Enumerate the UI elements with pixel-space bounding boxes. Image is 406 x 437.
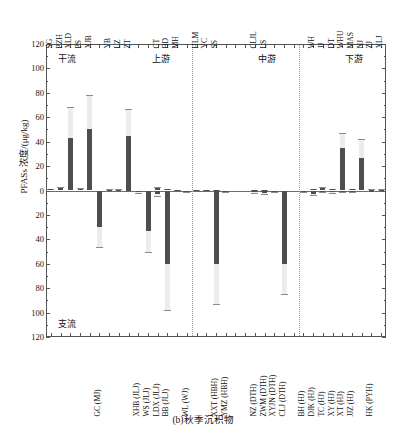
axis-tick <box>342 333 343 337</box>
axis-tick-minor <box>46 129 48 130</box>
bar[interactable] <box>204 190 209 191</box>
top-axis-site-label: MAS <box>347 32 355 48</box>
error-bar-cap <box>125 109 132 110</box>
y-tick-label: 60 <box>20 260 44 268</box>
figure-caption: (b)秋季沉积物 <box>0 412 406 426</box>
top-axis-site-label: ZT <box>124 39 132 48</box>
region-label-middle: 中游 <box>258 52 276 65</box>
error-bar-cap <box>329 193 336 194</box>
bar[interactable] <box>87 129 92 190</box>
axis-tick <box>382 93 386 94</box>
axis-tick-minor <box>384 129 386 130</box>
bar[interactable] <box>165 191 170 264</box>
axis-tick <box>294 44 295 48</box>
axis-tick <box>99 333 100 337</box>
bar[interactable] <box>97 191 102 228</box>
y-tick-label: 20 <box>20 211 44 219</box>
error-bar-cap <box>339 133 346 134</box>
bar[interactable] <box>369 191 374 192</box>
axis-tick <box>80 333 81 337</box>
error-bar-cap <box>358 139 365 140</box>
bar[interactable] <box>146 191 151 231</box>
top-axis-site-label: XLJ <box>377 36 385 49</box>
axis-tick <box>235 333 236 337</box>
axis-tick-minor <box>384 227 386 228</box>
axis-tick <box>46 68 50 69</box>
axis-tick-minor <box>384 300 386 301</box>
error-bar-cap <box>281 294 288 295</box>
axis-tick <box>382 264 386 265</box>
axis-tick <box>235 44 236 48</box>
region-label-mainstem: 干流 <box>58 52 76 65</box>
y-tick-label: 60 <box>20 113 44 121</box>
error-bar-cap <box>135 193 142 194</box>
bar[interactable] <box>350 191 355 192</box>
axis-tick-minor <box>384 325 386 326</box>
y-tick-label: 100 <box>20 309 44 317</box>
bar[interactable] <box>194 190 199 191</box>
top-axis-site-label: BD <box>163 38 171 49</box>
axis-tick <box>61 333 62 337</box>
bar[interactable] <box>184 191 189 192</box>
y-tick-label: 40 <box>20 235 44 243</box>
bar[interactable] <box>379 190 384 191</box>
bar[interactable] <box>136 191 141 193</box>
top-axis-site-label: YC <box>202 38 210 49</box>
bar[interactable] <box>330 191 335 192</box>
bar[interactable] <box>214 191 219 264</box>
axis-tick <box>382 288 386 289</box>
top-axis-site-label: CLJL <box>250 31 258 48</box>
bar[interactable] <box>68 138 73 190</box>
error-bar-cap <box>96 247 103 248</box>
axis-tick-minor <box>46 276 48 277</box>
bar[interactable] <box>272 191 277 192</box>
bar[interactable] <box>155 191 160 195</box>
bar[interactable] <box>340 191 345 192</box>
axis-tick <box>129 333 130 337</box>
axis-tick-minor <box>384 105 386 106</box>
axis-tick <box>46 166 50 167</box>
axis-tick-minor <box>46 227 48 228</box>
axis-tick-minor <box>384 203 386 204</box>
bar[interactable] <box>175 190 180 191</box>
bar[interactable] <box>107 190 112 191</box>
error-bar-cap <box>271 192 278 193</box>
axis-tick <box>46 288 50 289</box>
bar[interactable] <box>126 136 131 191</box>
axis-tick <box>303 333 304 337</box>
top-axis-site-label: NJ <box>357 40 365 48</box>
bar[interactable] <box>359 158 364 191</box>
bar[interactable] <box>252 191 257 193</box>
bottom-axis-site-label: ZWM (DTH) <box>260 375 268 416</box>
axis-tick <box>197 333 198 337</box>
bar[interactable] <box>223 191 228 192</box>
bar[interactable] <box>78 189 83 191</box>
y-tick-label: 120 <box>20 40 44 48</box>
top-axis-site-label: DT <box>328 38 336 48</box>
bottom-axis-site-label: XYJN (DTH) <box>270 375 278 417</box>
bar[interactable] <box>301 191 306 192</box>
bar[interactable] <box>282 191 287 264</box>
error-bar-cap <box>183 192 190 193</box>
error-bar-cap <box>154 196 161 197</box>
axis-tick-minor <box>384 276 386 277</box>
region-label-upper: 上游 <box>152 52 170 65</box>
error-bar-cap <box>368 191 375 192</box>
y-tick-label: 20 <box>20 162 44 170</box>
error-bar-cap <box>251 193 258 194</box>
y-tick-label: 80 <box>20 284 44 292</box>
axis-tick <box>313 333 314 337</box>
bar[interactable] <box>340 148 345 191</box>
top-axis-site-label: XJB <box>85 35 93 49</box>
axis-tick <box>274 44 275 48</box>
bar[interactable] <box>262 191 267 193</box>
bar[interactable] <box>58 188 63 190</box>
bar[interactable] <box>48 189 53 190</box>
bar[interactable] <box>116 190 121 191</box>
error-bar-cap <box>86 95 93 96</box>
bar[interactable] <box>320 191 325 192</box>
y-axis-tick-labels: 12010080604020020406080100120 <box>14 0 44 437</box>
bar[interactable] <box>311 191 316 194</box>
axis-tick-minor <box>46 154 48 155</box>
axis-tick <box>46 313 50 314</box>
